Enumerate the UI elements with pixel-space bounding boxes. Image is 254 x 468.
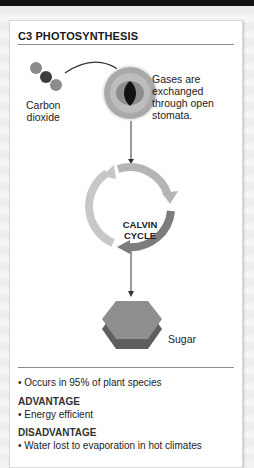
label-line: exchanged [152,85,214,97]
sugar-hexagon-icon [102,301,162,349]
label-line: CYCLE [105,230,175,241]
advantage-item: • Energy efficient [18,409,93,421]
carbon-dioxide-label: Carbon dioxide [26,99,60,123]
facts-divider [18,367,234,368]
label-line: Carbon [26,99,60,111]
label-line: Gases are [152,73,214,85]
disadvantage-item: • Water lost to evaporation in hot clima… [18,440,202,452]
c3-photosynthesis-card: C3 PHOTOSYNTHESIS [9,20,243,468]
carbon-dioxide-molecule-icon [30,62,62,91]
occurrence-fact: • Occurs in 95% of plant species [18,377,162,389]
calvin-cycle-label: CALVIN CYCLE [105,219,175,241]
sugar-label: Sugar [168,333,196,345]
label-line: CALVIN [105,219,175,230]
label-line: stomata. [152,109,214,121]
advantage-heading: ADVANTAGE [18,396,80,407]
disadvantage-heading: DISADVANTAGE [18,427,97,438]
stoma-icon [102,65,158,121]
label-line: dioxide [26,111,60,123]
gases-label: Gases are exchanged through open stomata… [152,73,214,121]
label-line: through open [152,97,214,109]
